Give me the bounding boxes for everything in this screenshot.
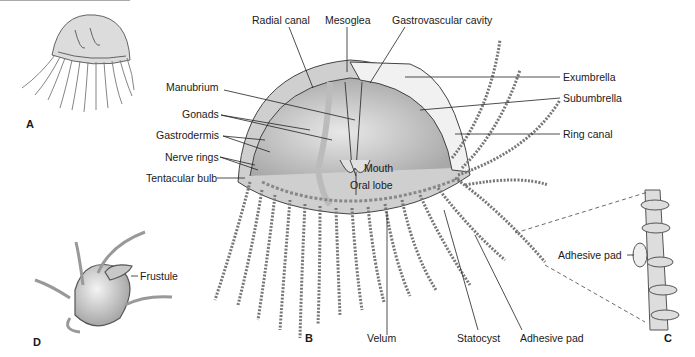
label-statocyst: Statocyst (457, 332, 500, 344)
label-gastrodermis: Gastrodermis (156, 129, 219, 141)
panel-label-c: C (664, 332, 672, 344)
label-adhesive-pad-c: Adhesive pad (558, 249, 622, 261)
panel-label-d: D (33, 336, 41, 348)
label-ring-canal: Ring canal (563, 128, 613, 140)
label-subumbrella: Subumbrella (563, 92, 622, 104)
label-nerve-rings: Nerve rings (165, 151, 219, 163)
label-oral-lobe: Oral lobe (350, 179, 393, 191)
label-gonads: Gonads (182, 108, 219, 120)
figure-illustration (0, 0, 695, 357)
panel-label-b: B (305, 332, 313, 344)
label-adhesive-pad-b: Adhesive pad (520, 332, 584, 344)
label-tentacular-bulb: Tentacular bulb (146, 172, 217, 184)
label-mouth: Mouth (364, 162, 393, 174)
panel-c-tentacle (633, 190, 679, 330)
label-radial-canal: Radial canal (252, 14, 310, 26)
label-velum: Velum (367, 332, 396, 344)
jellyfish-anatomy-figure: A B C D Radial canal Mesoglea Gastrovasc… (0, 0, 695, 357)
label-mesoglea: Mesoglea (325, 14, 371, 26)
panel-label-a: A (26, 118, 34, 130)
label-frustule: Frustule (140, 270, 178, 282)
label-exumbrella: Exumbrella (563, 71, 616, 83)
label-manubrium: Manubrium (166, 81, 219, 93)
panel-a-medusa (22, 15, 134, 112)
label-gastrovascular-cavity: Gastrovascular cavity (392, 14, 492, 26)
